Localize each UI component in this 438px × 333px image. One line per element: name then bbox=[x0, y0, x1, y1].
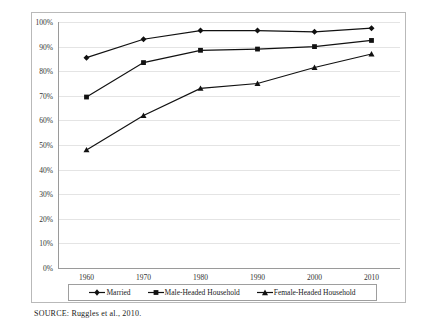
y-tick-label: 40% bbox=[39, 166, 53, 175]
y-tick-label: 30% bbox=[39, 190, 53, 199]
x-tick-label: 1960 bbox=[79, 273, 94, 282]
legend-label-married: Married bbox=[106, 288, 130, 297]
legend-item-male-headed-household[interactable]: Male-Headed Household bbox=[148, 288, 240, 297]
series-line bbox=[87, 40, 372, 97]
series-female-headed-household bbox=[84, 51, 375, 152]
y-tick-label: 0% bbox=[43, 264, 53, 273]
data-point bbox=[141, 36, 147, 42]
x-axis-tick-labels: 196019701980199020002010 bbox=[79, 273, 379, 282]
gridlines bbox=[58, 23, 400, 244]
data-point bbox=[369, 38, 374, 43]
y-tick-label: 10% bbox=[39, 239, 53, 248]
x-tick-label: 1980 bbox=[193, 273, 208, 282]
y-tick-label: 70% bbox=[39, 92, 53, 101]
y-tick-label: 60% bbox=[39, 116, 53, 125]
y-tick-label: 100% bbox=[36, 18, 54, 27]
source-note: SOURCE: Ruggles et al., 2010. bbox=[34, 309, 141, 318]
data-point bbox=[84, 55, 90, 61]
series-married bbox=[84, 25, 375, 61]
legend-item-female-headed-household[interactable]: Female-Headed Household bbox=[257, 288, 356, 297]
data-series-group bbox=[84, 25, 375, 152]
x-tick-label: 2010 bbox=[364, 273, 379, 282]
x-tick-label: 1970 bbox=[136, 273, 151, 282]
legend-item-married[interactable]: Married bbox=[89, 288, 130, 297]
plot-area: 0%10%20%30%40%50%60%70%80%90%100% 196019… bbox=[31, 12, 406, 303]
data-point bbox=[369, 51, 375, 56]
y-tick-label: 80% bbox=[39, 67, 53, 76]
line-chart: 0%10%20%30%40%50%60%70%80%90%100% 196019… bbox=[31, 12, 406, 303]
figure: 0%10%20%30%40%50%60%70%80%90%100% 196019… bbox=[0, 0, 438, 333]
data-point bbox=[141, 113, 147, 118]
series-line bbox=[87, 54, 372, 150]
y-tick-label: 20% bbox=[39, 215, 53, 224]
data-point bbox=[84, 147, 90, 152]
x-tick-label: 1990 bbox=[250, 273, 265, 282]
x-tick-label: 2000 bbox=[307, 273, 322, 282]
data-point bbox=[255, 28, 261, 34]
data-point bbox=[198, 48, 203, 53]
legend-label-male-headed-household: Male-Headed Household bbox=[165, 288, 240, 297]
y-tick-label: 90% bbox=[39, 43, 53, 52]
data-point bbox=[198, 28, 204, 34]
square-marker-icon bbox=[148, 288, 164, 297]
data-point bbox=[312, 44, 317, 49]
chart-legend: Married Male-Headed Household Female-Hea… bbox=[68, 284, 377, 301]
data-point bbox=[255, 47, 260, 52]
data-point bbox=[369, 25, 375, 31]
y-axis-tick-labels: 0%10%20%30%40%50%60%70%80%90%100% bbox=[36, 18, 54, 273]
triangle-marker-icon bbox=[257, 288, 273, 297]
series-line bbox=[87, 28, 372, 58]
data-point bbox=[312, 29, 318, 35]
diamond-marker-icon bbox=[89, 288, 105, 297]
data-point bbox=[141, 60, 146, 65]
legend-label-female-headed-household: Female-Headed Household bbox=[274, 288, 356, 297]
y-tick-label: 50% bbox=[39, 141, 53, 150]
data-point bbox=[84, 95, 89, 100]
